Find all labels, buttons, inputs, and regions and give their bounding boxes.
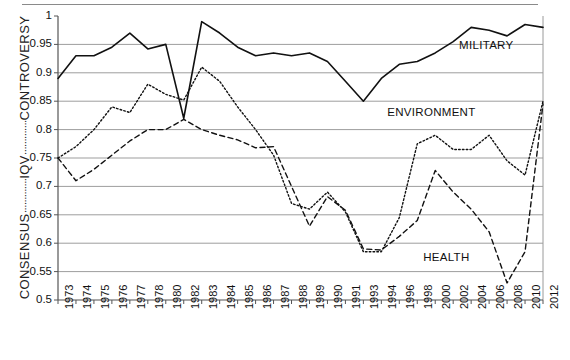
series-line-health bbox=[58, 104, 543, 283]
x-tick-label: 1993 bbox=[368, 285, 380, 309]
chart-plot-area: CONSENSUS·············IQV·············CO… bbox=[0, 0, 570, 360]
x-tick-label: 1975 bbox=[99, 285, 111, 309]
y-tick-label: 1 bbox=[18, 9, 52, 21]
x-tick-label: 1980 bbox=[171, 285, 183, 309]
x-tick-label: 1983 bbox=[207, 285, 219, 309]
y-tick-label: 0.9 bbox=[18, 66, 52, 78]
x-tick-label: 2010 bbox=[530, 285, 542, 309]
x-tick-label: 1994 bbox=[386, 285, 398, 309]
x-tick-label: 1985 bbox=[243, 285, 255, 309]
x-tick-label: 1989 bbox=[314, 285, 326, 309]
x-tick-label: 1978 bbox=[153, 285, 165, 309]
x-tick-label: 2012 bbox=[548, 285, 560, 309]
chart-figure: CONSENSUS·············IQV·············CO… bbox=[0, 0, 570, 360]
x-tick-label: 2006 bbox=[494, 285, 506, 309]
x-tick-label: 1988 bbox=[297, 285, 309, 309]
x-tick-label: 1976 bbox=[117, 285, 129, 309]
x-tick-label: 2000 bbox=[440, 285, 452, 309]
series-label-health: HEALTH bbox=[423, 251, 469, 263]
x-tick-label: 1984 bbox=[225, 285, 237, 309]
y-tick-label: 0.85 bbox=[18, 94, 52, 106]
y-tick-label: 0.65 bbox=[18, 208, 52, 220]
x-tick-label: 1974 bbox=[81, 285, 93, 309]
x-tick-label: 2008 bbox=[512, 285, 524, 309]
y-tick-label: 0.5 bbox=[18, 293, 52, 305]
series-label-environment: ENVIRONMENT bbox=[387, 106, 475, 118]
y-tick-label: 0.8 bbox=[18, 123, 52, 135]
x-tick-label: 1973 bbox=[63, 285, 75, 309]
x-tick-label: 1996 bbox=[404, 285, 416, 309]
x-tick-label: 1982 bbox=[189, 285, 201, 309]
series-line-environment bbox=[58, 67, 543, 252]
data-series-lines bbox=[58, 22, 543, 283]
x-tick-label: 1986 bbox=[261, 285, 273, 309]
y-tick-label: 0.6 bbox=[18, 236, 52, 248]
x-tick-label: 2004 bbox=[476, 285, 488, 309]
y-tick-label: 0.7 bbox=[18, 179, 52, 191]
y-tick-label: 0.95 bbox=[18, 37, 52, 49]
x-tick-label: 1998 bbox=[422, 285, 434, 309]
x-tick-label: 2002 bbox=[458, 285, 470, 309]
y-tick-label: 0.75 bbox=[18, 151, 52, 163]
x-tick-label: 1977 bbox=[135, 285, 147, 309]
x-tick-label: 1990 bbox=[332, 285, 344, 309]
x-tick-label: 1991 bbox=[350, 285, 362, 309]
x-tick-label: 1987 bbox=[279, 285, 291, 309]
series-label-military: MILITARY bbox=[459, 39, 513, 51]
y-tick-label: 0.55 bbox=[18, 265, 52, 277]
series-line-military bbox=[58, 22, 543, 119]
